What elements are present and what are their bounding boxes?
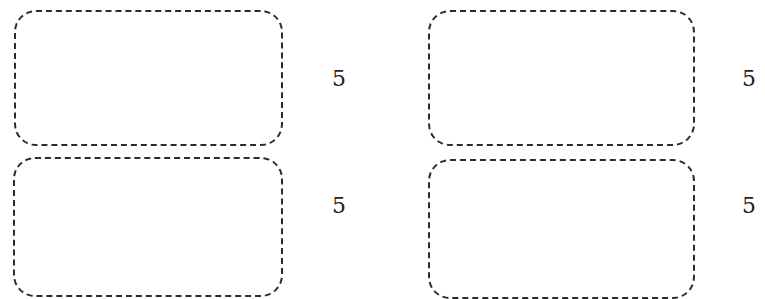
- answer-box-top-right[interactable]: [428, 10, 695, 146]
- answer-box-bottom-left[interactable]: [13, 157, 283, 297]
- number-label-bottom-left: 5: [332, 195, 346, 217]
- number-label-top-right: 5: [742, 68, 756, 90]
- answer-box-bottom-right[interactable]: [428, 159, 695, 299]
- answer-box-top-left[interactable]: [14, 10, 283, 146]
- number-label-top-left: 5: [332, 68, 346, 90]
- number-label-bottom-right: 5: [742, 195, 756, 217]
